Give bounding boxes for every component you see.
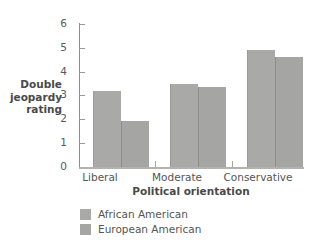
x-axis-tick-divider-1 bbox=[155, 161, 156, 167]
legend-item-european-american: European American bbox=[80, 222, 201, 237]
bar-conservative-european-american bbox=[275, 57, 303, 167]
x-axis-title: Political orientation bbox=[79, 185, 303, 197]
legend: African American European American bbox=[80, 207, 201, 237]
plot-area bbox=[79, 24, 303, 167]
x-axis-category-moderate: Moderate bbox=[140, 171, 214, 183]
y-axis-label-1: 1 bbox=[27, 137, 67, 147]
bar-liberal-african-american bbox=[93, 91, 121, 167]
x-axis-spine bbox=[79, 167, 304, 169]
y-axis-label-2: 2 bbox=[27, 113, 67, 123]
legend-label-african-american: African American bbox=[98, 209, 188, 220]
bar-conservative-african-american bbox=[247, 50, 275, 167]
legend-item-african-american: African American bbox=[80, 207, 201, 222]
y-axis-label-3: 3 bbox=[27, 89, 67, 99]
x-axis-category-liberal: Liberal bbox=[63, 171, 137, 183]
legend-swatch-african-american bbox=[80, 209, 91, 220]
x-axis-tick-divider-2 bbox=[232, 161, 233, 167]
double-jeopardy-bar-chart: Double jeopardy rating 0 1 2 3 4 5 6 Lib… bbox=[0, 0, 318, 245]
legend-swatch-european-american bbox=[80, 224, 91, 235]
y-axis-label-4: 4 bbox=[27, 66, 67, 76]
y-axis-label-6: 6 bbox=[27, 18, 67, 28]
y-axis-label-5: 5 bbox=[27, 42, 67, 52]
bar-moderate-african-american bbox=[170, 84, 198, 167]
x-axis-category-conservative: Conservative bbox=[215, 171, 301, 183]
bar-moderate-european-american bbox=[198, 87, 226, 167]
bar-liberal-european-american bbox=[121, 121, 149, 168]
y-axis-label-0: 0 bbox=[27, 161, 67, 171]
legend-label-european-american: European American bbox=[98, 224, 201, 235]
